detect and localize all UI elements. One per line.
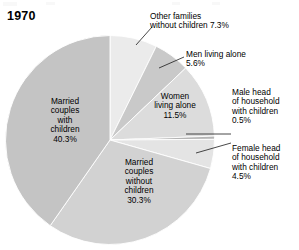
slice-label-married-couples-with-children: Married couples with children 40.3% xyxy=(32,97,98,144)
slice-label-female-head-of-household: Female head of household with children 4… xyxy=(232,144,298,182)
slice-label-other-families: Other families without children 7.3% xyxy=(150,12,275,31)
slice-label-men-living-alone: Men living alone 5.6% xyxy=(186,50,294,69)
slice-label-women-living-alone: Women living alone 11.5% xyxy=(141,92,209,120)
slice-label-married-couples-without-children: Married couples without children 30.3% xyxy=(104,158,174,205)
pie-chart-figure: 1970 Other families without children 7.3… xyxy=(0,0,299,250)
slice-label-male-head-of-household: Male head of household with children 0.5… xyxy=(232,88,298,126)
